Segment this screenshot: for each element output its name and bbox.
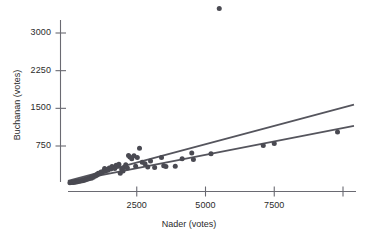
data-points-group bbox=[67, 6, 340, 185]
y-tick-label: 750 bbox=[0, 140, 51, 150]
data-point bbox=[159, 155, 164, 160]
data-point bbox=[261, 143, 266, 148]
data-point bbox=[133, 164, 138, 169]
data-point bbox=[173, 164, 178, 169]
x-tick-label: 5000 bbox=[176, 200, 236, 210]
axis-lines bbox=[61, 20, 357, 192]
data-point bbox=[191, 157, 196, 162]
scatter-plot-figure: 750150022503000 250050007500 Nader (vote… bbox=[0, 0, 378, 241]
data-point bbox=[217, 6, 222, 11]
y-tick-label: 1500 bbox=[0, 102, 51, 112]
data-point bbox=[180, 156, 185, 161]
data-point bbox=[272, 141, 277, 146]
x-tick-label: 2500 bbox=[107, 200, 167, 210]
data-point bbox=[135, 155, 140, 160]
data-point bbox=[189, 151, 194, 156]
y-axis-title: Buchanan (votes) bbox=[12, 50, 22, 160]
data-point bbox=[148, 159, 153, 164]
data-point bbox=[145, 165, 150, 170]
data-point bbox=[209, 151, 214, 156]
x-tick-label: 7500 bbox=[244, 200, 304, 210]
x-axis-title: Nader (votes) bbox=[0, 219, 378, 229]
data-point bbox=[125, 166, 130, 171]
data-point bbox=[152, 165, 157, 170]
data-point bbox=[116, 162, 121, 167]
y-tick-label: 2250 bbox=[0, 65, 51, 75]
data-point bbox=[163, 164, 168, 169]
data-point bbox=[335, 129, 340, 134]
data-point bbox=[137, 146, 142, 151]
y-tick-label: 3000 bbox=[0, 27, 51, 37]
